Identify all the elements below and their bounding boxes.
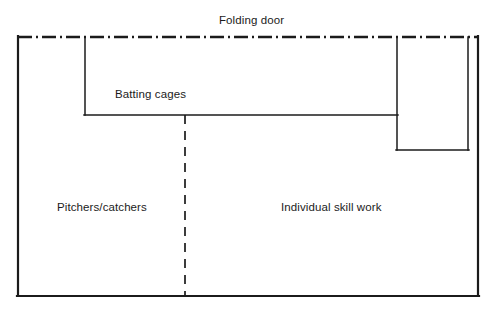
floor-plan-canvas [0,0,499,310]
folding-door-label: Folding door [219,14,284,27]
pitchers-catchers-label: Pitchers/catchers [57,201,147,214]
batting-cages-label: Batting cages [115,88,186,101]
individual-skill-work-label: Individual skill work [281,201,382,214]
floor-plan-diagram: Folding door Batting cages Pitchers/catc… [0,0,499,310]
